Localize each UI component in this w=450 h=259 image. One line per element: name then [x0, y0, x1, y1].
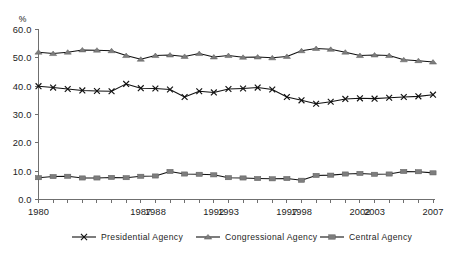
- legend-label: Congressional Agency: [225, 232, 318, 242]
- x-axis-tick-label: 1998: [291, 207, 312, 217]
- y-axis-tick-label: 60.0: [13, 25, 32, 35]
- x-axis-tick-label: 2003: [364, 207, 385, 217]
- x-axis-tick-label: 1980: [28, 207, 49, 217]
- chart-legend: Presidential AgencyCongressional AgencyC…: [72, 232, 413, 242]
- y-axis-tick-label: 10.0: [13, 167, 32, 177]
- legend-label: Presidential Agency: [101, 232, 183, 242]
- line-chart: 0.010.020.030.040.050.060.0% 19801987198…: [0, 0, 450, 259]
- y-axis-tick-label: 50.0: [13, 53, 32, 63]
- y-axis-tick-label: 20.0: [13, 138, 32, 148]
- legend-marker-square-icon: [329, 235, 336, 239]
- chart-canvas: 0.010.020.030.040.050.060.0% 19801987198…: [0, 0, 450, 259]
- chart-background: [0, 0, 450, 259]
- x-axis-tick-label: 2007: [422, 207, 443, 217]
- y-axis-tick-label: 30.0: [13, 110, 32, 120]
- x-axis-tick-label: 1993: [218, 207, 239, 217]
- y-axis-tick-label: 0.0: [18, 195, 31, 205]
- y-axis-tick-label: 40.0: [13, 82, 32, 92]
- x-axis-tick-label: 1988: [145, 207, 166, 217]
- legend-label: Central Agency: [349, 232, 413, 242]
- y-axis-unit-label: %: [19, 14, 27, 24]
